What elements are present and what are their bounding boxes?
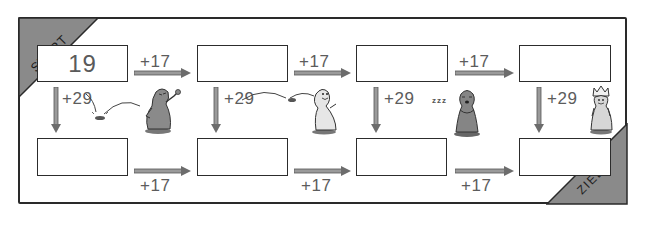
right-arrow-icon <box>455 68 515 78</box>
right-arrow-icon <box>294 68 352 78</box>
waving-pawn-figure <box>240 86 350 136</box>
down-arrow-icon <box>371 87 381 134</box>
answer-box-top-4[interactable] <box>519 45 611 82</box>
bottom-op-label-3: +17 <box>461 176 491 196</box>
right-arrow-icon <box>294 166 352 176</box>
answer-box-top-1[interactable]: 19 <box>37 45 128 82</box>
queen-pawn-figure <box>586 84 616 136</box>
down-arrow-icon <box>211 87 221 134</box>
bottom-op-label-1: +17 <box>140 176 170 196</box>
down-op-label-4: +29 <box>547 89 577 109</box>
down-op-label-3: +29 <box>384 89 414 109</box>
angry-pawn-figure <box>82 86 182 136</box>
right-arrow-icon <box>134 68 192 78</box>
start-value: 19 <box>68 50 97 78</box>
sleeping-pawn-figure <box>452 88 482 138</box>
answer-box-bottom-2[interactable] <box>197 138 288 176</box>
right-arrow-icon <box>455 166 515 176</box>
down-arrow-icon <box>534 87 544 134</box>
answer-box-bottom-1[interactable] <box>37 138 128 176</box>
right-arrow-icon <box>134 166 192 176</box>
answer-box-bottom-4[interactable] <box>519 138 611 176</box>
down-arrow-icon <box>51 87 61 134</box>
answer-box-top-3[interactable] <box>356 45 448 82</box>
sleep-zzz: zzz <box>432 96 447 105</box>
bottom-op-label-2: +17 <box>301 176 331 196</box>
answer-box-top-2[interactable] <box>197 45 288 82</box>
answer-box-bottom-3[interactable] <box>356 138 447 176</box>
